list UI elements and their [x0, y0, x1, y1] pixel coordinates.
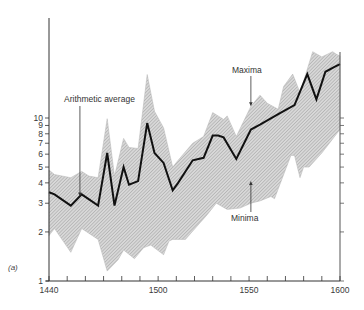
y-tick-label: 5: [38, 162, 43, 172]
x-tick-label: 1500: [149, 285, 168, 295]
min-max-band: [49, 52, 340, 271]
x-tick-label: 1600: [331, 285, 350, 295]
annotation-average-label: Arithmetic average: [64, 94, 135, 104]
band-fill: [49, 52, 340, 271]
x-tick-label: 1550: [240, 285, 259, 295]
y-tick-label: 10: [34, 113, 44, 123]
annotation-minima-label: Minima: [231, 213, 259, 223]
y-tick-label: 3: [38, 198, 43, 208]
y-tick-label: 2: [38, 227, 43, 237]
y-tick-label: 4: [38, 178, 43, 188]
y-tick-label: 6: [38, 149, 43, 159]
y-tick-label: 7: [38, 138, 43, 148]
panel-label: (a): [8, 263, 18, 272]
price-range-chart: 123456789101440150015501600(a) Arithmeti…: [0, 0, 364, 310]
x-tick-label: 1440: [40, 285, 59, 295]
annotation-maxima-label: Maxima: [232, 65, 262, 75]
